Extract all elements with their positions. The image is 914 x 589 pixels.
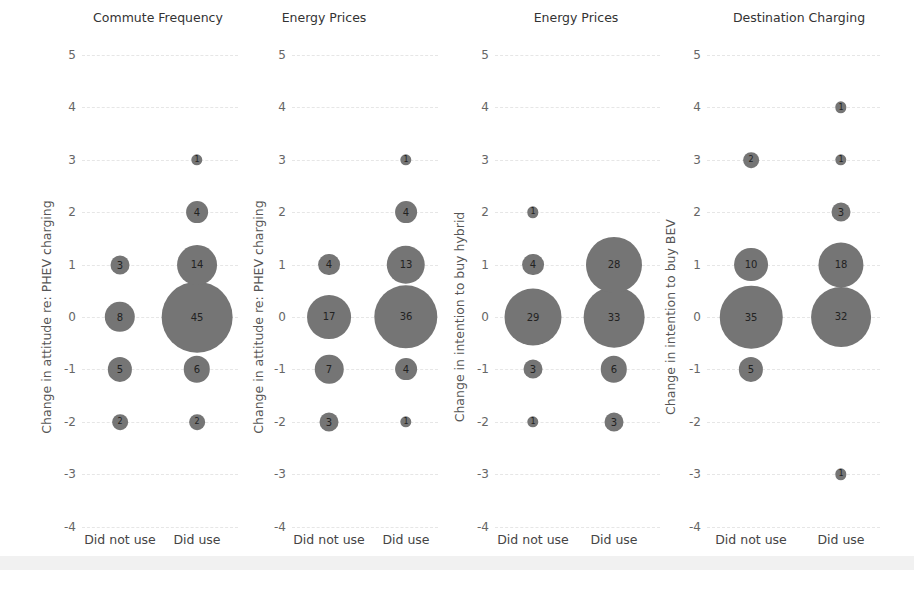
y-tick-label: -1 [689, 362, 701, 376]
y-axis-label: Change in intention to buy BEV [663, 219, 678, 415]
bottom-divider [0, 556, 914, 570]
data-bubble[interactable]: 2 [112, 414, 128, 430]
data-bubble[interactable]: 7 [315, 355, 344, 384]
data-bubble[interactable]: 10 [734, 248, 768, 282]
data-bubble[interactable]: 35 [720, 286, 783, 349]
y-tick-label: 0 [693, 310, 701, 324]
gridline [707, 369, 880, 370]
data-bubble[interactable]: 33 [584, 287, 645, 348]
panel-title: Destination Charging [733, 10, 865, 25]
data-bubble[interactable]: 3 [320, 412, 339, 431]
data-bubble[interactable]: 32 [811, 287, 871, 347]
gridline [707, 160, 880, 161]
data-bubble[interactable]: 3 [832, 203, 851, 222]
data-bubble[interactable]: 4 [318, 254, 340, 276]
data-bubble[interactable]: 1 [835, 468, 846, 479]
y-tick-label: -4 [689, 520, 701, 534]
data-bubble[interactable]: 3 [524, 360, 543, 379]
y-tick-label: 1 [693, 258, 701, 272]
data-bubble[interactable]: 2 [743, 152, 759, 168]
x-category-label: Did use [817, 532, 864, 547]
data-bubble[interactable]: 4 [186, 201, 208, 223]
y-tick-label: -3 [689, 467, 701, 481]
y-tick-label: 4 [693, 100, 701, 114]
gridline [707, 212, 880, 213]
data-bubble[interactable]: 28 [586, 237, 642, 293]
gridline [707, 527, 880, 528]
data-bubble[interactable]: 18 [818, 242, 863, 287]
data-bubble[interactable]: 2 [189, 414, 205, 430]
data-bubble[interactable]: 1 [835, 102, 846, 113]
data-bubble[interactable]: 4 [395, 358, 417, 380]
data-bubble[interactable]: 5 [739, 357, 763, 381]
gridline [707, 474, 880, 475]
gridline [707, 55, 880, 56]
data-bubble[interactable]: 4 [395, 201, 417, 223]
data-bubble[interactable]: 1 [835, 154, 846, 165]
data-bubble[interactable]: 45 [162, 282, 233, 353]
y-tick-label: 2 [693, 205, 701, 219]
data-bubble[interactable]: 3 [111, 255, 130, 274]
y-tick-label: 3 [693, 153, 701, 167]
data-bubble[interactable]: 14 [177, 245, 217, 285]
data-bubble[interactable]: 29 [505, 289, 562, 346]
x-category-label: Did not use [715, 532, 787, 547]
gridline [707, 422, 880, 423]
y-tick-label: 5 [693, 48, 701, 62]
data-bubble[interactable]: 17 [307, 295, 351, 339]
data-bubble[interactable]: 4 [522, 254, 544, 276]
y-tick-label: -2 [689, 415, 701, 429]
chart-panel-4: Destination ChargingChange in intention … [0, 0, 914, 589]
gridline [707, 107, 880, 108]
data-bubble[interactable]: 3 [605, 412, 624, 431]
